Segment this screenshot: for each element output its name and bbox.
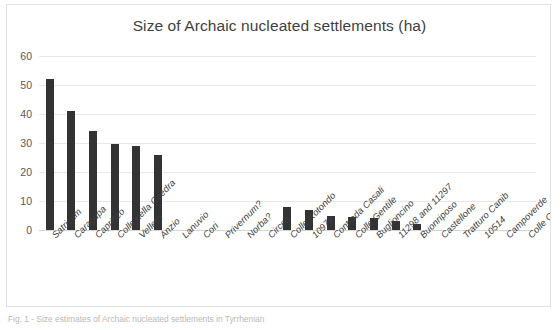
bar-slot [212, 56, 234, 230]
y-tick-label: 30 [20, 137, 32, 149]
y-tick-label: 50 [20, 79, 32, 91]
x-axis-labels: SatricumCaracupaCaprificoColle della Coe… [39, 231, 536, 307]
figure-caption: Fig. 1 - Size estimates of Archaic nucle… [8, 314, 548, 328]
y-tick-label: 0 [26, 224, 32, 236]
bar-slot [277, 56, 299, 230]
y-tick-label: 10 [20, 195, 32, 207]
bar-slot [190, 56, 212, 230]
plot-area: 0102030405060 [39, 56, 536, 230]
bar-slot [169, 56, 191, 230]
figure: Size of Archaic nucleated settlements (h… [0, 0, 560, 330]
chart-title: Size of Archaic nucleated settlements (h… [7, 17, 551, 35]
y-tick-label: 40 [20, 108, 32, 120]
bar-slot [61, 56, 83, 230]
bar-slot [39, 56, 61, 230]
bar[interactable] [46, 79, 54, 230]
y-tick-label: 20 [20, 166, 32, 178]
bar-slot [104, 56, 126, 230]
chart-frame: Size of Archaic nucleated settlements (h… [6, 4, 551, 307]
bar-series [39, 56, 536, 230]
y-tick-label: 60 [20, 50, 32, 62]
